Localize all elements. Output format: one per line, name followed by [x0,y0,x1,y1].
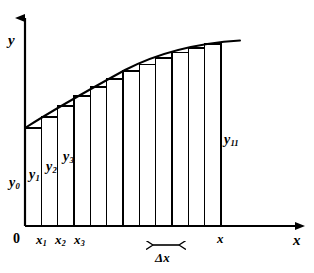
x1-tick-label: x1 [36,233,47,246]
rect-y10 [188,48,204,226]
y0-label: y0 [9,176,20,190]
x-axis-label: x [293,233,301,248]
x-end-tick-label: x [217,232,224,245]
y2-label: y2 [46,160,57,174]
y1-subscript: 1 [35,173,39,183]
rect-y11 [205,44,221,226]
figure-canvas [0,0,314,273]
rect-y6 [123,71,139,226]
rect-y5 [107,79,123,226]
rect-y8 [156,58,172,226]
x1-subscript: 1 [43,239,47,248]
x2-subscript: 2 [62,239,66,248]
x3-subscript: 3 [81,239,85,248]
rect-y9 [172,53,188,227]
y2-subscript: 2 [52,165,56,175]
riemann-sum-figure: y x 0 y0 y1 y2 y3 y11 x1 x2 x3 x Δx [0,0,314,273]
y11-subscript: 11 [230,138,238,148]
y3-subscript: 3 [69,155,73,165]
x3-tick-label: x3 [74,233,85,246]
rect-y2 [58,106,74,226]
x2-tick-label: x2 [55,233,66,246]
x2-base: x [55,232,62,247]
rect-y4 [90,87,106,226]
y1-label: y1 [29,168,40,182]
y11-label: y11 [224,133,238,147]
rect-y3 [74,96,90,226]
x3-base: x [74,232,81,247]
y0-subscript: 0 [15,181,19,191]
rect-y7 [139,65,155,227]
delta-x-label: Δx [155,251,170,264]
x1-base: x [36,232,43,247]
y3-label: y3 [63,150,74,164]
y-axis-label: y [8,33,15,48]
origin-label: 0 [13,232,20,246]
